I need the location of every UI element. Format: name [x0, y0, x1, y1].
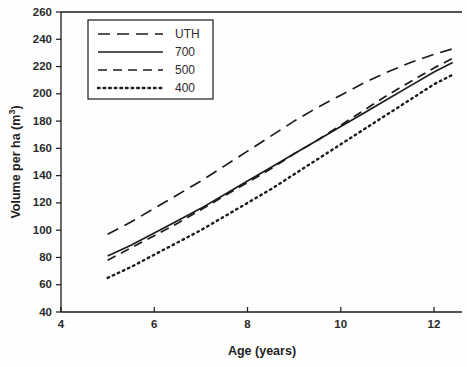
- chart-legend: UTH700500400: [88, 20, 213, 99]
- y-axis-title-tail: ): [9, 105, 23, 109]
- x-axis-title: Age (years): [228, 344, 296, 358]
- legend-label-500: 500: [175, 63, 195, 77]
- y-tick-label-220: 220: [33, 60, 52, 72]
- legend-label-700: 700: [175, 45, 195, 59]
- y-axis-title-group: Volume per ha (m3): [7, 105, 23, 218]
- x-tick-label-4: 4: [58, 318, 65, 330]
- y-tick-label-120: 120: [33, 196, 52, 208]
- y-tick-label-180: 180: [33, 115, 52, 127]
- series-line-400: [108, 75, 453, 278]
- x-tick-label-10: 10: [334, 318, 347, 330]
- y-tick-label-80: 80: [39, 251, 52, 263]
- y-tick-label-200: 200: [33, 87, 52, 99]
- y-axis-title-main: Volume per ha (m: [9, 115, 23, 219]
- y-tick-label-40: 40: [39, 306, 52, 318]
- y-tick-label-100: 100: [33, 224, 52, 236]
- y-tick-label-60: 60: [39, 278, 52, 290]
- y-axis-title: Volume per ha (m3): [7, 105, 23, 218]
- x-axis-ticks: [61, 307, 434, 312]
- y-axis-ticks: [56, 12, 61, 312]
- chart-figure: 406080100120140160180200220240260 468101…: [0, 0, 467, 367]
- y-tick-label-240: 240: [33, 33, 52, 45]
- y-tick-label-140: 140: [33, 169, 52, 181]
- legend-label-uth: UTH: [175, 27, 200, 41]
- volume-age-line-chart: 406080100120140160180200220240260 468101…: [0, 0, 467, 367]
- legend-label-400: 400: [175, 81, 195, 95]
- y-tick-label-260: 260: [33, 6, 52, 18]
- x-tick-label-8: 8: [244, 318, 251, 330]
- x-tick-label-12: 12: [428, 318, 441, 330]
- y-axis-tick-labels: 406080100120140160180200220240260: [33, 6, 52, 318]
- y-tick-label-160: 160: [33, 142, 52, 154]
- x-axis-tick-labels: 4681012: [58, 318, 441, 330]
- x-tick-label-6: 6: [151, 318, 157, 330]
